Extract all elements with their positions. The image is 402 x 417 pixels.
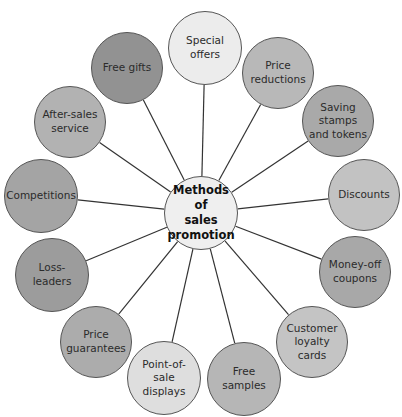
connector-line — [143, 100, 184, 180]
node-after-sales-service: After-sales service — [34, 86, 106, 158]
connector-line — [238, 199, 328, 209]
node-label: Competitions — [2, 189, 80, 203]
node-customer-loyalty-cards: Customer loyalty cards — [276, 306, 348, 378]
node-saving-stamps-and-tokens: Saving stamps and tokens — [302, 85, 374, 157]
node-competitions: Competitions — [4, 159, 78, 233]
node-special-offers: Special offers — [168, 11, 242, 85]
node-label: Customer loyalty cards — [277, 322, 347, 363]
node-label: After-sales service — [38, 108, 101, 135]
connector-line — [86, 227, 167, 261]
connector-line — [172, 249, 193, 342]
node-label: Free samples — [208, 365, 280, 392]
node-discounts: Discounts — [328, 159, 400, 231]
connector-line — [219, 105, 261, 181]
center-node-methods-of-sales-promotion: Methods of sales promotion — [164, 176, 238, 250]
node-label: Money-off coupons — [325, 258, 385, 285]
center-node-label: Methods of sales promotion — [163, 183, 238, 243]
connector-line — [119, 242, 178, 314]
connector-line — [78, 200, 164, 209]
node-label: Price guarantees — [62, 328, 130, 355]
connector-line — [202, 85, 204, 176]
node-free-samples: Free samples — [207, 342, 281, 416]
node-money-off-coupons: Money-off coupons — [319, 236, 391, 308]
node-label: Loss-leaders — [16, 261, 88, 288]
node-label: Point-of-sale displays — [128, 358, 200, 399]
connector-line — [100, 143, 171, 192]
node-label: Discounts — [334, 188, 394, 202]
node-label: Special offers — [169, 34, 241, 61]
node-label: Free gifts — [99, 61, 155, 75]
node-label: Price reductions — [246, 59, 309, 86]
node-point-of-sale-displays: Point-of-sale displays — [127, 341, 201, 415]
connector-line — [232, 141, 308, 192]
sales-promotion-diagram: Methods of sales promotion Special offer… — [0, 0, 402, 417]
connector-line — [236, 226, 322, 259]
connector-line — [210, 249, 234, 343]
node-label: Saving stamps and tokens — [303, 101, 373, 142]
node-price-guarantees: Price guarantees — [60, 306, 132, 378]
node-price-reductions: Price reductions — [242, 37, 314, 109]
connector-line — [225, 241, 288, 315]
node-free-gifts: Free gifts — [91, 32, 163, 104]
node-loss-leaders: Loss-leaders — [15, 238, 89, 312]
